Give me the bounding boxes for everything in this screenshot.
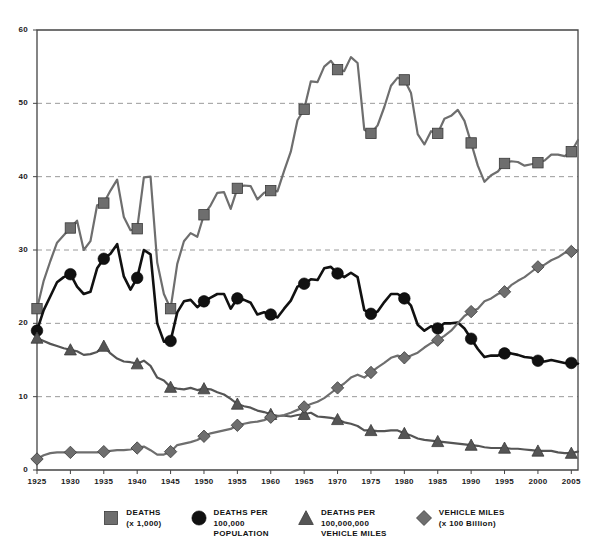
square-marker <box>499 158 509 168</box>
legend-label-1: DEATHS PER100,000POPULATION <box>214 508 269 540</box>
triangle-marker <box>98 340 110 351</box>
legend-line: (x 1,000) <box>126 519 161 530</box>
legend-label-0: DEATHS(x 1,000) <box>126 508 161 529</box>
y-axis-label-40: 40 <box>0 172 28 181</box>
y-axis-label-60: 60 <box>0 25 28 34</box>
circle-legend-icon <box>190 509 208 527</box>
legend-item-2[interactable]: DEATHS PER100,000,000VEHICLE MILES <box>297 508 387 540</box>
square-marker <box>132 224 142 234</box>
legend-item-1[interactable]: DEATHS PER100,000POPULATION <box>190 508 269 540</box>
diamond-marker <box>198 430 210 442</box>
diamond-marker <box>465 305 477 317</box>
y-axis-label-50: 50 <box>0 98 28 107</box>
square-marker <box>105 512 118 525</box>
diamond-marker <box>416 511 431 526</box>
circle-marker <box>332 268 344 280</box>
legend-line: DEATHS PER <box>321 508 387 519</box>
triangle-marker <box>398 427 410 438</box>
square-marker <box>399 75 409 85</box>
square-marker <box>366 128 376 138</box>
y-axis-label-0: 0 <box>0 465 28 474</box>
diamond-marker <box>298 401 310 413</box>
square-marker <box>466 138 476 148</box>
circle-marker <box>499 348 511 360</box>
triangle-legend-icon <box>297 509 315 527</box>
square-marker <box>533 158 543 168</box>
circle-marker <box>232 293 244 305</box>
square-marker <box>232 183 242 193</box>
diamond-marker <box>565 245 577 257</box>
legend-line: (x 100 Billion) <box>439 519 505 530</box>
series-0 <box>32 57 578 314</box>
y-axis-label-30: 30 <box>0 245 28 254</box>
square-marker <box>165 303 175 313</box>
legend-line: VEHICLE MILES <box>321 529 387 540</box>
square-marker <box>566 147 576 157</box>
square-marker <box>299 104 309 114</box>
square-legend-icon <box>102 509 120 527</box>
chart-container: DEATHS(x 1,000)DEATHS PER100,000POPULATI… <box>0 0 607 557</box>
legend-item-3[interactable]: VEHICLE MILES(x 100 Billion) <box>415 508 505 529</box>
diamond-marker <box>98 445 110 457</box>
circle-marker <box>131 272 143 284</box>
square-marker <box>99 198 109 208</box>
square-marker <box>32 303 42 313</box>
series-line <box>37 244 578 364</box>
diamond-legend-icon <box>415 509 433 527</box>
legend-label-3: VEHICLE MILES(x 100 Billion) <box>439 508 505 529</box>
chart-legend: DEATHS(x 1,000)DEATHS PER100,000POPULATI… <box>0 508 607 540</box>
legend-item-0[interactable]: DEATHS(x 1,000) <box>102 508 161 529</box>
legend-line: DEATHS PER <box>214 508 269 519</box>
circle-marker <box>98 253 110 265</box>
legend-line: VEHICLE MILES <box>439 508 505 519</box>
series-line <box>37 57 578 309</box>
legend-line: DEATHS <box>126 508 161 519</box>
diamond-marker <box>131 442 143 454</box>
circle-marker <box>265 309 277 321</box>
y-axis-label-10: 10 <box>0 392 28 401</box>
circle-marker <box>365 308 377 320</box>
circle-marker <box>198 296 210 308</box>
legend-line: 100,000 <box>214 519 269 530</box>
diamond-marker <box>31 453 43 465</box>
square-marker <box>332 64 342 74</box>
legend-label-2: DEATHS PER100,000,000VEHICLE MILES <box>321 508 387 540</box>
series-2 <box>31 332 578 458</box>
diamond-marker <box>398 352 410 364</box>
diamond-marker <box>432 334 444 346</box>
x-axis-label-2005: 2005 <box>551 477 591 486</box>
triangle-marker <box>299 511 314 525</box>
circle-marker <box>566 357 578 369</box>
circle-marker <box>532 355 544 367</box>
circle-marker <box>298 278 310 290</box>
square-marker <box>433 128 443 138</box>
line-chart-plot <box>0 0 607 500</box>
circle-marker <box>165 335 177 347</box>
diamond-marker <box>231 419 243 431</box>
circle-marker <box>432 323 444 335</box>
circle-marker <box>465 333 477 345</box>
circle-marker <box>191 511 205 525</box>
square-marker <box>65 223 75 233</box>
circle-marker <box>65 268 77 280</box>
y-axis-label-20: 20 <box>0 318 28 327</box>
circle-marker <box>399 293 411 305</box>
diamond-marker <box>64 446 76 458</box>
square-marker <box>266 185 276 195</box>
square-marker <box>199 210 209 220</box>
series-1 <box>31 244 578 369</box>
legend-line: POPULATION <box>214 529 269 540</box>
legend-line: 100,000,000 <box>321 519 387 530</box>
